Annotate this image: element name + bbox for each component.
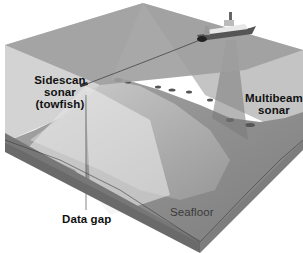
label-sidescan-line3: (towfish) <box>30 98 90 110</box>
label-multibeam-line2: sonar <box>244 104 303 116</box>
label-multibeam-sonar: Multibeam sonar <box>244 92 303 116</box>
seafloor-sonar-diagram <box>0 0 303 253</box>
label-multibeam-line1: Multibeam <box>244 92 303 104</box>
label-sidescan-line2: sonar <box>30 86 90 98</box>
label-sidescan-line1: Sidescan <box>30 74 90 86</box>
label-seafloor: Seafloor <box>170 206 220 218</box>
label-data-gap: Data gap <box>62 213 112 225</box>
label-sidescan-sonar: Sidescan sonar (towfish) <box>30 74 90 110</box>
